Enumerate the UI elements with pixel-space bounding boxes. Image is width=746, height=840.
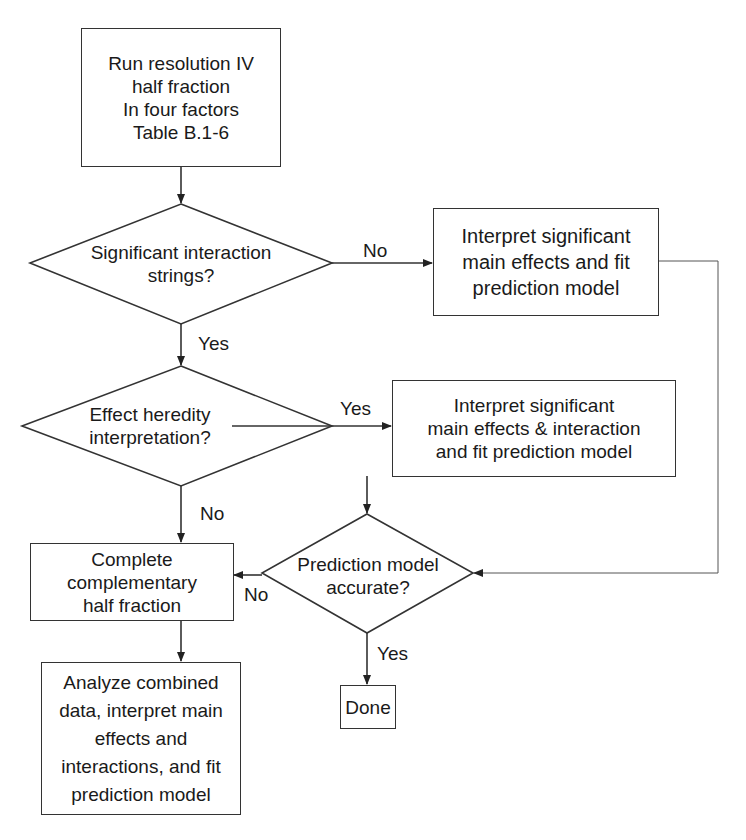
main-effects-model-box: Interpret significant main effects and f…	[433, 208, 659, 316]
edge-label-accurate-no: No	[244, 584, 268, 606]
edge-label-interactions-yes: Yes	[198, 333, 229, 355]
effects-interaction-model-box: Interpret significant main effects & int…	[392, 380, 676, 477]
complementary-fraction-box: Complete complementary half fraction	[30, 543, 234, 621]
done-terminal-box: Done	[340, 685, 396, 729]
edge-label-heredity-yes: Yes	[340, 398, 371, 420]
analyze-combined-box: Analyze combined data, interpret main ef…	[41, 662, 241, 815]
decision-heredity-text: Effect heredity interpretation?	[50, 400, 250, 452]
start-process-box: Run resolution IV half fraction In four …	[81, 28, 281, 167]
decision-accurate-text: Prediction model accurate?	[282, 550, 454, 602]
edge-label-accurate-yes: Yes	[377, 643, 408, 665]
edge-label-heredity-no: No	[200, 503, 224, 525]
edge-label-interactions-no: No	[363, 240, 387, 262]
decision-interactions-text: Significant interaction strings?	[50, 238, 312, 290]
